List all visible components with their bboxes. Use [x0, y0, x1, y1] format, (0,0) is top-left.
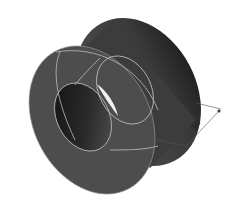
cad-ring-drawing: 30	[0, 0, 238, 204]
cylinder-body	[4, 0, 226, 204]
